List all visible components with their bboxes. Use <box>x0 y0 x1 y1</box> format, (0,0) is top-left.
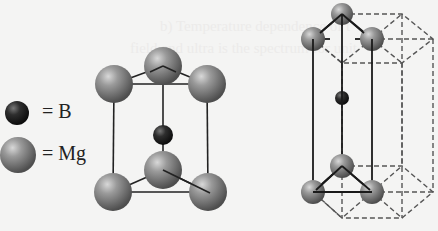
magnesium-legend-label: = Mg <box>42 142 86 165</box>
magnesium-legend-icon <box>0 137 36 173</box>
boron-legend-icon <box>5 101 29 125</box>
mg-atom <box>95 65 133 103</box>
boron-legend-label: = B <box>42 100 72 123</box>
legend <box>0 101 36 173</box>
mg-atom <box>188 65 226 103</box>
mg-atom <box>94 173 132 211</box>
b-atom <box>153 125 173 145</box>
